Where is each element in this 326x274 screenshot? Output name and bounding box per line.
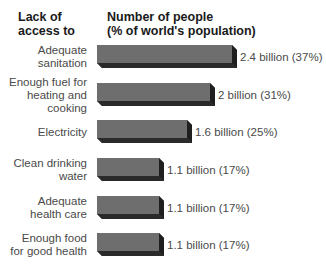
category-label: Electricity	[0, 126, 87, 139]
category-label-line: cooking	[0, 102, 87, 115]
category-label-line: health care	[0, 208, 87, 221]
bar	[97, 45, 239, 69]
bar	[97, 120, 194, 144]
category-label-line: Clean drinking	[0, 157, 87, 170]
bar	[97, 196, 166, 220]
category-label-line: Adequate	[0, 44, 87, 57]
bar-row: Electricity1.6 billion (25%)	[0, 120, 326, 144]
category-label-line: for good health	[0, 245, 87, 258]
bar	[97, 83, 217, 107]
value-label: 2 billion (31%)	[218, 89, 291, 101]
category-label: Adequatehealth care	[0, 195, 87, 221]
category-label-line: Electricity	[0, 126, 87, 139]
bar-row: Adequatehealth care1.1 billion (17%)	[0, 196, 326, 220]
category-label-line: Enough food	[0, 232, 87, 245]
value-label: 1.6 billion (25%)	[195, 126, 277, 138]
x-header-line1: Number of people	[107, 10, 256, 24]
bar	[97, 233, 166, 257]
value-label: 1.1 billion (17%)	[167, 239, 249, 251]
value-label: 1.1 billion (17%)	[167, 164, 249, 176]
bar	[97, 158, 166, 182]
category-label: Enough foodfor good health	[0, 232, 87, 258]
y-header-line1: Lack of	[18, 10, 75, 24]
value-label: 1.1 billion (17%)	[167, 202, 249, 214]
category-label: Adequatesanitation	[0, 44, 87, 70]
category-label-line: water	[0, 170, 87, 183]
bar-row: Adequatesanitation2.4 billion (37%)	[0, 45, 326, 69]
category-label-line: Enough fuel for	[0, 76, 87, 89]
bar-row: Enough fuel forheating andcooking2 billi…	[0, 83, 326, 107]
category-label-line: sanitation	[0, 57, 87, 70]
value-label: 2.4 billion (37%)	[240, 51, 322, 63]
category-label: Clean drinkingwater	[0, 157, 87, 183]
category-label-line: heating and	[0, 89, 87, 102]
x-axis-header: Number of people (% of world's populatio…	[107, 10, 256, 38]
x-header-line2: (% of world's population)	[107, 24, 256, 38]
y-axis-header: Lack of access to	[18, 10, 75, 38]
y-header-line2: access to	[18, 24, 75, 38]
category-label-line: Adequate	[0, 195, 87, 208]
bar-row: Clean drinkingwater1.1 billion (17%)	[0, 158, 326, 182]
bar-row: Enough foodfor good health1.1 billion (1…	[0, 233, 326, 257]
category-label: Enough fuel forheating andcooking	[0, 76, 87, 115]
